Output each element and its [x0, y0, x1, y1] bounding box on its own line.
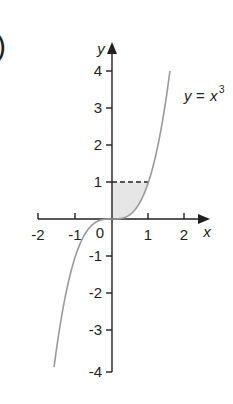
part-label: )	[0, 29, 6, 62]
svg-text:3: 3	[219, 84, 225, 95]
x-tick-label: -1	[68, 226, 81, 243]
curve-label: y = x 3	[183, 84, 225, 104]
x-axis-label: x	[202, 223, 211, 240]
svg-text:=: =	[196, 87, 205, 104]
y-tick-label: 3	[94, 99, 102, 116]
y-ticks	[106, 71, 112, 330]
y-axis-arrow-icon	[107, 42, 117, 54]
y-tick-label: 1	[94, 173, 102, 190]
x-tick-label: -2	[31, 226, 44, 243]
origin-label: 0	[96, 224, 104, 241]
y-tick-label: -4	[89, 363, 102, 380]
y-tick-label: -1	[89, 247, 102, 264]
svg-text:y: y	[183, 87, 193, 104]
x-tick-label: 1	[144, 226, 152, 243]
cubic-graph: ) -2 -1 1 2 0 x y 4 3 2 1 -1 -2 -3 -4	[0, 0, 233, 404]
y-axis-label: y	[96, 40, 106, 57]
y-tick-label: -3	[89, 321, 102, 338]
svg-text:x: x	[209, 87, 218, 104]
x-ticks	[38, 213, 184, 219]
y-tick-label: 2	[94, 136, 102, 153]
x-tick-label: 2	[180, 226, 188, 243]
y-tick-label: 4	[94, 62, 102, 79]
y-tick-label: -2	[89, 284, 102, 301]
